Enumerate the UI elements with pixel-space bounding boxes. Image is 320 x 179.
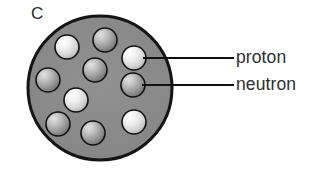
nucleus-diagram: C proton neutron xyxy=(0,0,320,179)
particle-neutron xyxy=(93,28,117,52)
particle-neutron xyxy=(81,121,105,145)
particle-neutron xyxy=(83,58,107,82)
particle-neutron xyxy=(46,112,70,136)
particle-neutron xyxy=(36,68,60,92)
callout-label-proton: proton xyxy=(236,49,286,67)
particle-proton xyxy=(122,110,146,134)
diagram-part-label: C xyxy=(31,5,43,22)
particle-proton xyxy=(64,88,88,112)
callout-label-neutron: neutron xyxy=(236,76,296,94)
particle-neutron-callout xyxy=(121,73,145,97)
particle-proton xyxy=(55,35,79,59)
particle-proton-callout xyxy=(122,46,146,70)
